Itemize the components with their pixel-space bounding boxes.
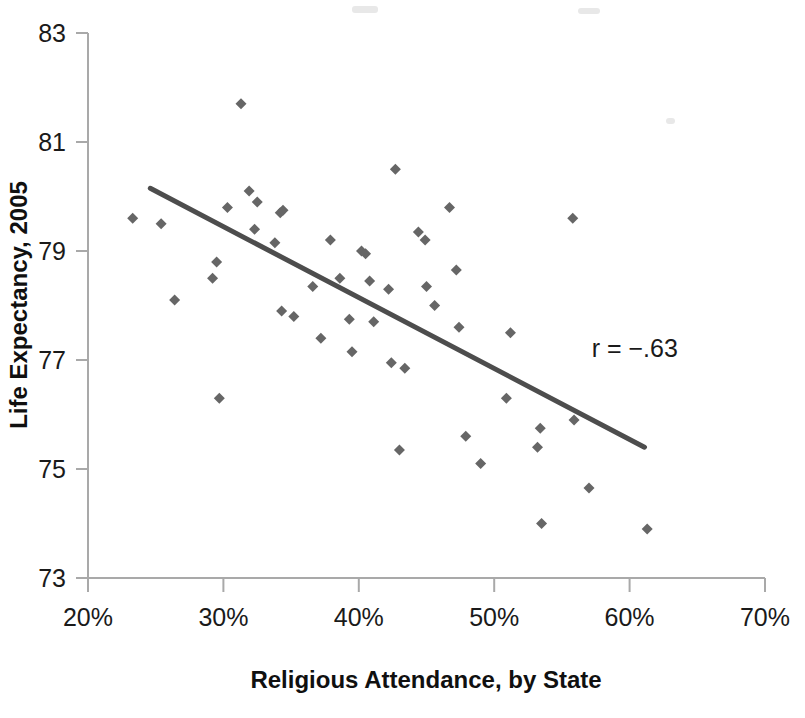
- y-tick-label: 79: [38, 237, 66, 265]
- data-point-marker: [368, 316, 379, 327]
- data-point-marker: [211, 256, 222, 267]
- y-tick-label: 77: [38, 346, 66, 374]
- data-point-marker: [383, 284, 394, 295]
- data-point-marker: [207, 273, 218, 284]
- x-tick-label: 70%: [740, 603, 790, 631]
- data-point-marker: [249, 224, 260, 235]
- scatter-chart: 737577798183 20%30%40%50%60%70% r = −.63…: [0, 0, 805, 718]
- data-point-marker: [429, 300, 440, 311]
- data-point-marker: [236, 98, 247, 109]
- data-point-marker: [214, 393, 225, 404]
- data-point-marker: [532, 442, 543, 453]
- data-point-marker: [642, 523, 653, 534]
- data-point-marker: [364, 275, 375, 286]
- data-point-marker: [536, 518, 547, 529]
- data-point-marker: [127, 213, 138, 224]
- y-tick-label: 73: [38, 564, 66, 592]
- data-point-marker: [505, 327, 516, 338]
- y-tick-label: 75: [38, 455, 66, 483]
- data-point-marker: [535, 423, 546, 434]
- data-point-marker: [501, 393, 512, 404]
- x-tick-label: 60%: [605, 603, 655, 631]
- scan-artifacts: [352, 6, 675, 124]
- y-tick-label: 83: [38, 19, 66, 47]
- data-point-marker: [399, 363, 410, 374]
- data-point-marker: [475, 458, 486, 469]
- data-point-marker: [386, 357, 397, 368]
- x-axis-title: Religious Attendance, by State: [250, 666, 601, 693]
- data-point-marker: [444, 202, 455, 213]
- data-point-marker: [583, 483, 594, 494]
- data-point-marker: [156, 218, 167, 229]
- data-point-marker: [451, 265, 462, 276]
- data-point-marker: [344, 314, 355, 325]
- x-tick-label: 30%: [198, 603, 248, 631]
- y-tick-label: 81: [38, 128, 66, 156]
- data-point-marker: [325, 235, 336, 246]
- data-point-marker: [569, 414, 580, 425]
- data-point-marker: [347, 346, 358, 357]
- data-point-marker: [276, 305, 287, 316]
- data-point-marker: [334, 273, 345, 284]
- data-point-marker: [420, 235, 431, 246]
- trend-line: [150, 188, 644, 447]
- x-tick-label: 20%: [63, 603, 113, 631]
- data-point-marker: [460, 431, 471, 442]
- data-point-marker: [222, 202, 233, 213]
- y-axis-title: Life Expectancy, 2005: [5, 181, 32, 429]
- data-point-marker: [413, 226, 424, 237]
- data-point-marker: [252, 196, 263, 207]
- data-point-marker: [390, 164, 401, 175]
- data-point-marker: [567, 213, 578, 224]
- x-tick-label: 40%: [334, 603, 384, 631]
- data-point-marker: [269, 237, 280, 248]
- data-point-marker: [288, 311, 299, 322]
- chart-canvas: 737577798183 20%30%40%50%60%70% r = −.63…: [0, 0, 805, 718]
- data-point-marker: [394, 444, 405, 455]
- data-point-marker: [307, 281, 318, 292]
- x-axis: 20%30%40%50%60%70%: [63, 578, 790, 631]
- data-point-marker: [315, 333, 326, 344]
- data-point-marker: [244, 186, 255, 197]
- correlation-annotation: r = −.63: [592, 334, 678, 362]
- data-point-marker: [453, 322, 464, 333]
- y-axis: 737577798183: [38, 19, 88, 592]
- data-point-marker: [421, 281, 432, 292]
- data-point-marker: [169, 295, 180, 306]
- x-tick-label: 50%: [469, 603, 519, 631]
